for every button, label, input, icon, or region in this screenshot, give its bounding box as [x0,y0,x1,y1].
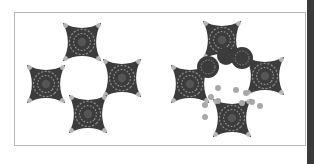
quilt-figure [0,0,314,164]
block-right [151,1,303,156]
block-left [7,3,160,152]
